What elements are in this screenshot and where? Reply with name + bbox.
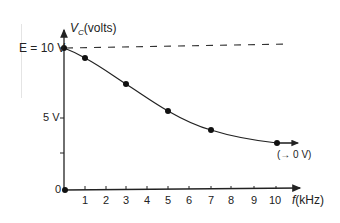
e-label: E = 10 V <box>19 42 65 54</box>
x-axis-units: (kHz) <box>295 193 324 207</box>
zero-label: 0 <box>55 184 61 195</box>
y-axis-symbol: V <box>70 21 78 35</box>
x-tick-label-5: 5 <box>165 195 171 206</box>
x-tick-label-2: 2 <box>103 195 109 206</box>
y-axis-units: (volts) <box>84 21 117 35</box>
x-tick-label-3: 3 <box>123 195 129 206</box>
x-tick-label-4: 4 <box>144 195 150 206</box>
x-axis <box>64 188 300 190</box>
x-tick-label-1: 1 <box>82 195 88 206</box>
vc-curve <box>64 48 297 143</box>
x-tick-label-6: 6 <box>186 195 192 206</box>
y-axis-label: VC(volts) <box>70 22 116 37</box>
x-tick-label-10: 10 <box>269 195 281 206</box>
x-tick-label-7: 7 <box>208 195 214 206</box>
x-tick-label-8: 8 <box>228 195 234 206</box>
x-tick-label-9: 9 <box>251 195 257 206</box>
x-axis-label: f(kHz) <box>292 194 324 206</box>
five-volt-label: 5 V <box>43 112 60 123</box>
reference-line-e <box>66 44 290 48</box>
asymptote-note: (→ 0 V) <box>277 150 311 160</box>
data-points <box>61 45 280 193</box>
capacitor-voltage-frequency-chart: VC(volts) E = 10 V 5 V 0 1 2 3 4 5 6 7 8… <box>0 0 340 223</box>
